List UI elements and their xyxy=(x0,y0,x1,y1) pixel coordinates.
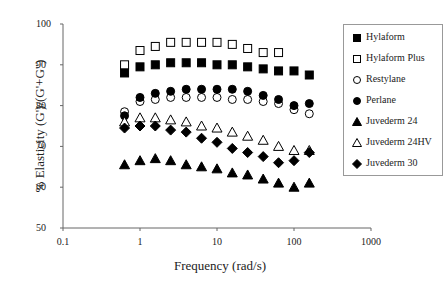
legend-marker-icon xyxy=(352,33,362,43)
y-tick-label: 100 xyxy=(36,18,51,29)
legend-item: Hylaform Plus xyxy=(352,52,425,64)
y-tick-label: 60 xyxy=(36,181,46,192)
legend-item: Hylaform xyxy=(352,31,405,43)
legend-item: Juvederm 30 xyxy=(352,157,417,169)
chart: % Elasticity (G')/(G'+G") Frequency (rad… xyxy=(0,0,447,284)
y-tick-label: 50 xyxy=(36,222,46,233)
x-axis-label: Frequency (rad/s) xyxy=(150,258,290,274)
legend-marker-icon xyxy=(352,75,362,85)
legend: HylaformHylaform PlusRestylanePerlaneJuv… xyxy=(343,24,443,176)
y-tick-label: 70 xyxy=(36,140,46,151)
y-tick-label: 80 xyxy=(36,100,46,111)
legend-marker-icon xyxy=(352,159,362,169)
x-tick-label: 100 xyxy=(284,236,304,247)
y-tick-label: 90 xyxy=(36,59,46,70)
x-tick-label: 1 xyxy=(130,236,150,247)
x-tick-label: 1000 xyxy=(361,236,381,247)
legend-item: Perlane xyxy=(352,94,396,106)
x-tick-label: 10 xyxy=(207,236,227,247)
legend-marker-icon xyxy=(352,96,362,106)
x-tick-label: 0.1 xyxy=(53,236,73,247)
legend-item: Restylane xyxy=(352,73,405,85)
legend-item: Juvederm 24 xyxy=(352,115,417,127)
legend-marker-icon xyxy=(352,54,362,64)
legend-marker-icon xyxy=(352,117,362,127)
legend-item: Juvederm 24HV xyxy=(352,136,432,148)
legend-marker-icon xyxy=(352,138,362,148)
